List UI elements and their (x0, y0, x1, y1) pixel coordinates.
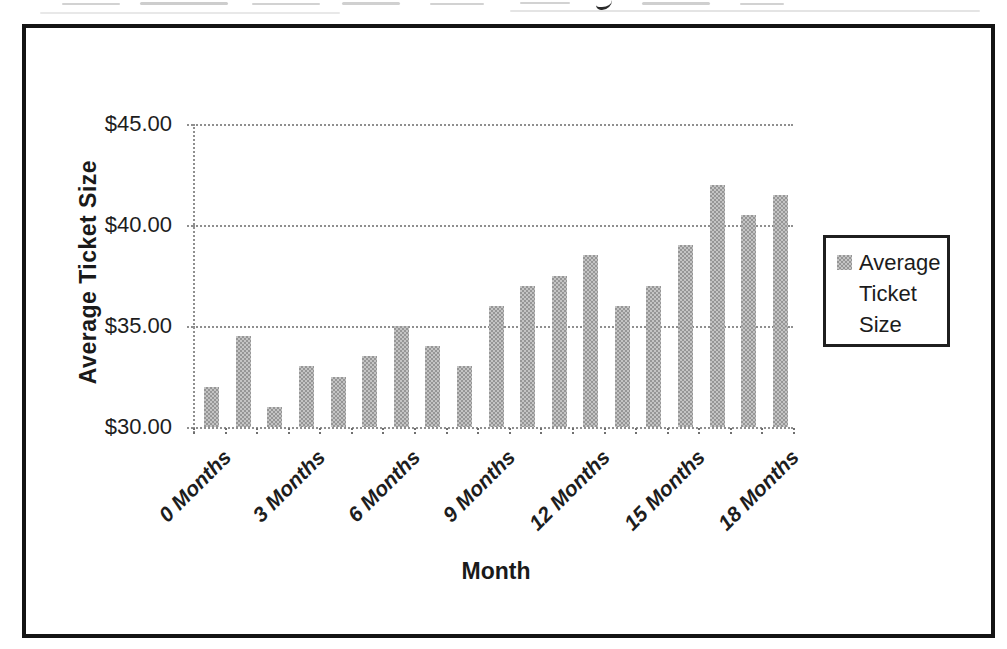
x-tick-mark (540, 428, 542, 434)
bar-month-3 (299, 366, 314, 427)
x-tick-mark (509, 428, 511, 434)
x-tick-mark (793, 428, 795, 434)
bar-month-2 (267, 407, 282, 427)
y-tick-label: $35.00 (90, 313, 172, 339)
x-tick-label-text: 9 Months (438, 445, 520, 527)
x-tick-mark (446, 428, 448, 434)
x-tick-mark (414, 428, 416, 434)
y-tick-label: $45.00 (90, 111, 172, 137)
bar-month-0 (204, 387, 219, 427)
x-tick-label-text: 18 Months (714, 445, 804, 535)
x-tick-label-text: 6 Months (343, 445, 425, 527)
x-axis-title: Month (462, 558, 531, 585)
gridline-40 (193, 225, 793, 227)
x-tick-label-text: 15 Months (619, 445, 709, 535)
x-tick-mark (382, 428, 384, 434)
bar-month-9 (489, 306, 504, 427)
bar-month-8 (457, 366, 472, 427)
bar-month-16 (710, 185, 725, 427)
bar-month-1 (236, 336, 251, 427)
x-tick-mark (319, 428, 321, 434)
bar-month-11 (552, 276, 567, 428)
y-tick-label: $30.00 (90, 414, 172, 440)
x-tick-mark (193, 428, 195, 434)
x-tick-mark (667, 428, 669, 434)
bar-month-18 (773, 195, 788, 427)
x-tick-label-text: 0 Months (154, 445, 236, 527)
legend: Average Ticket Size (823, 235, 950, 347)
x-tick-mark (698, 428, 700, 434)
bar-month-17 (741, 215, 756, 427)
bar-month-14 (646, 286, 661, 427)
x-tick-label-text: 12 Months (524, 445, 614, 535)
x-tick-mark (604, 428, 606, 434)
x-tick-mark (351, 428, 353, 434)
bar-month-12 (583, 255, 598, 427)
y-axis-title: Average Ticket Size (75, 160, 102, 384)
legend-swatch-icon (837, 255, 852, 270)
x-tick-mark (288, 428, 290, 434)
bar-month-6 (394, 326, 409, 427)
bar-month-5 (362, 356, 377, 427)
gridline-30 (193, 427, 793, 429)
x-tick-mark (477, 428, 479, 434)
bar-month-10 (520, 286, 535, 427)
gridline-45 (193, 124, 793, 126)
bar-month-15 (678, 245, 693, 427)
x-tick-mark (730, 428, 732, 434)
x-tick-mark (256, 428, 258, 434)
y-axis-line (193, 124, 195, 433)
legend-label: Average Ticket Size (859, 247, 943, 340)
x-tick-mark (635, 428, 637, 434)
bar-month-13 (615, 306, 630, 427)
bar-month-4 (331, 377, 346, 428)
x-tick-mark (572, 428, 574, 434)
x-tick-label-text: 3 Months (248, 445, 330, 527)
bar-month-7 (425, 346, 440, 427)
y-tick-label: $40.00 (90, 212, 172, 238)
x-tick-mark (761, 428, 763, 434)
x-tick-mark (225, 428, 227, 434)
